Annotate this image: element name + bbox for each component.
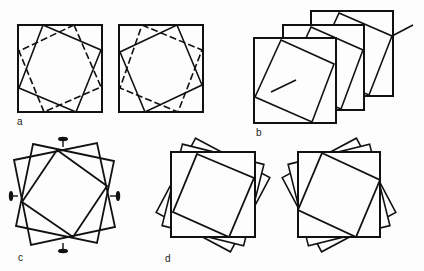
panel-label-c: c: [18, 253, 23, 263]
main-square: [171, 152, 255, 237]
diagram-canvas: [0, 0, 424, 271]
dashed-inscribed-square: [19, 25, 101, 112]
twofold-axis-icon: [116, 191, 120, 201]
twofold-axis-icon: [9, 191, 13, 201]
dashed-inscribed-square: [120, 25, 202, 112]
inscribed-square: [22, 150, 107, 237]
panel-label-a: a: [17, 117, 23, 127]
solid-inscribed-square: [19, 25, 101, 112]
rotation-axis-line: [392, 25, 413, 36]
panel-b: [254, 11, 413, 123]
twofold-axis-icon: [58, 137, 68, 141]
main-square: [298, 152, 380, 237]
solid-inscribed-square: [120, 25, 202, 112]
panel-c: [9, 137, 120, 253]
outer-square: [18, 25, 102, 112]
panel-d: [156, 138, 396, 252]
panel-label-b: b: [256, 128, 262, 138]
twofold-axis-icon: [58, 249, 68, 253]
panel-label-d: d: [165, 254, 171, 264]
outer-square: [119, 25, 203, 112]
panel-a: [18, 25, 203, 112]
tilted-square: [16, 144, 114, 243]
